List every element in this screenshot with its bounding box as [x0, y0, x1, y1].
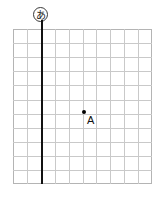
point-a-dot [82, 110, 86, 114]
gridline-horizontal [13, 156, 152, 157]
gridline-vertical [138, 29, 139, 184]
gridline-horizontal [13, 142, 152, 143]
gridline-horizontal [13, 85, 152, 86]
gridline-vertical [55, 29, 56, 184]
gridline-vertical [27, 29, 28, 184]
gridline-vertical [124, 29, 125, 184]
gridline-vertical [83, 29, 84, 184]
gridline-horizontal [13, 100, 152, 101]
grid-area: A [13, 29, 152, 184]
gridline-horizontal [13, 43, 152, 44]
gridline-horizontal [13, 170, 152, 171]
axis-label-marker: あ [32, 7, 50, 23]
gridline-vertical [110, 29, 111, 184]
gridline-horizontal [13, 71, 152, 72]
gridline-vertical [96, 29, 97, 184]
gridline-horizontal [13, 128, 152, 129]
grid-diagram: あ A [0, 0, 168, 200]
gridline-vertical [69, 29, 70, 184]
axis-label-text: あ [36, 8, 46, 23]
gridline-horizontal [13, 57, 152, 58]
point-a-label: A [87, 115, 94, 126]
axis-line-vertical [41, 29, 43, 184]
